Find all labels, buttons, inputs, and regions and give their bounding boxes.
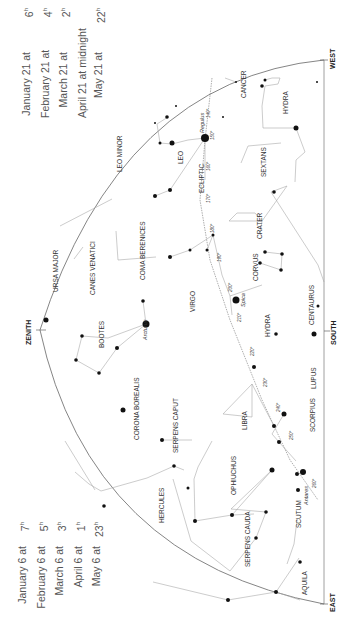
time-row: May 6 at23h: [88, 522, 107, 612]
ecliptic-degree: 150°: [210, 131, 215, 140]
time-row: March 6 at3h: [51, 522, 70, 612]
label-aquila: AQUILA: [301, 571, 308, 595]
label-centaurus: CENTAURUS: [308, 285, 315, 325]
label-virgo: VIRGO: [189, 291, 196, 312]
ecliptic-degree: 210°: [237, 313, 242, 322]
ecliptic-degree: 170°: [206, 194, 211, 203]
label-serpens-caput: SERPENS CAPUT: [172, 398, 179, 453]
time-row: January 6 at7h: [14, 522, 33, 612]
label-leo-minor: LEO MINOR: [116, 136, 123, 172]
star-spica: Spica: [240, 293, 246, 307]
label-sextans: SEXTANS: [260, 147, 267, 177]
ecliptic-degree: 240°: [276, 403, 281, 412]
time-row: February 6 at5h: [33, 522, 52, 612]
time-row: April 21 at midnight: [74, 8, 90, 118]
label-hercules: HERCULES: [158, 488, 165, 523]
label-ophiuchus: OPHIUCHUS: [230, 456, 237, 495]
time-row: January 21 at6h: [18, 8, 37, 118]
label-cancer: CANCER: [240, 71, 247, 98]
label-lupus: LUPUS: [310, 367, 317, 389]
label-crater: CRATER: [256, 213, 263, 239]
direction-zenith: ZENITH: [25, 320, 32, 345]
ecliptic-line: [200, 78, 318, 500]
direction-south: SOUTH: [330, 321, 337, 346]
direction-east: EAST: [329, 593, 336, 612]
ecliptic-degree: 200°: [228, 283, 233, 292]
ecliptic-degree: 160°: [206, 162, 211, 171]
label-hydra-west: HYDRA: [282, 91, 289, 114]
star-arcturus: Arcturus: [142, 320, 148, 340]
label-canes-venatici: CANES VENATICI: [89, 241, 96, 295]
label-scorpius: SCORPIUS: [309, 398, 316, 432]
label-corvus: CORVUS: [252, 253, 259, 281]
label-ursa-major: URSA MAJOR: [52, 250, 59, 292]
label-bootes: BOOTES: [98, 321, 105, 348]
label-coma-berenices: COMA BERENICES: [139, 221, 146, 280]
label-hydra-south: HYDRA: [264, 314, 271, 337]
ecliptic-degree: 230°: [263, 378, 268, 387]
ecliptic-degree: 180°: [210, 224, 215, 233]
star-antares: Antares: [303, 486, 309, 505]
time-row: May 21 at22h: [90, 8, 109, 118]
ecliptic-degree: 260°: [312, 479, 317, 488]
time-table-west: January 21 at6h February 21 at4h March 2…: [18, 8, 108, 118]
label-leo: LEO: [177, 151, 184, 164]
time-row: April 6 at1h: [70, 522, 89, 612]
label-scutum: SCUTUM: [295, 500, 302, 528]
label-libra: LIBRA: [241, 411, 248, 430]
ecliptic-degree: 250°: [289, 431, 294, 440]
label-ecliptic: ECLIPTIC: [198, 164, 205, 193]
label-serpens-cauda: SERPENS CAUDA: [244, 511, 251, 567]
ecliptic-degree: 220°: [250, 347, 255, 356]
ecliptic-degree: 140°: [206, 109, 211, 118]
time-row: February 21 at4h: [37, 8, 56, 118]
label-corona-borealis: CORONA BOREALIS: [133, 378, 140, 441]
time-table-east: January 6 at7h February 6 at5h March 6 a…: [14, 522, 107, 612]
direction-west: WEST: [329, 49, 336, 69]
time-row: March 21 at2h: [55, 8, 74, 118]
ecliptic-degree: 190°: [217, 253, 222, 262]
star-regulus: Regulus: [199, 113, 205, 133]
